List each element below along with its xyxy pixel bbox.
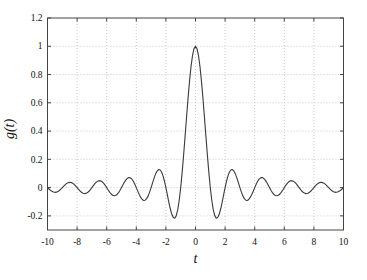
x-tick-label: 10 [339, 237, 349, 247]
x-tick-label: 8 [312, 237, 317, 247]
x-tick-label: -8 [73, 237, 81, 247]
y-tick-label: 1.2 [31, 13, 43, 23]
x-tick-label: 6 [282, 237, 287, 247]
tick-label-layer: -10-8-6-4-20246810-0.200.20.40.60.811.2 [27, 13, 348, 247]
y-tick-label: -0.2 [27, 211, 42, 221]
x-tick-label: -2 [162, 237, 170, 247]
sinc-plot: -10-8-6-4-20246810-0.200.20.40.60.811.2 … [0, 0, 367, 280]
y-tick-label: 0 [38, 183, 43, 193]
grid-layer [48, 18, 344, 230]
x-tick-label: 0 [193, 237, 198, 247]
y-tick-label: 0.2 [31, 155, 43, 165]
y-tick-label: 0.8 [31, 70, 43, 80]
y-tick-label: 0.4 [31, 126, 43, 136]
y-tick-label: 1 [38, 41, 43, 51]
y-axis-label: g(t) [2, 119, 18, 140]
x-tick-label: -10 [41, 237, 54, 247]
x-tick-label: -4 [132, 237, 140, 247]
x-tick-label: 2 [223, 237, 228, 247]
x-tick-label: -6 [103, 237, 111, 247]
x-tick-label: 4 [252, 237, 257, 247]
x-axis-label: t [194, 251, 199, 266]
y-tick-label: 0.6 [31, 98, 43, 108]
sinc-figure: -10-8-6-4-20246810-0.200.20.40.60.811.2 … [0, 0, 367, 280]
